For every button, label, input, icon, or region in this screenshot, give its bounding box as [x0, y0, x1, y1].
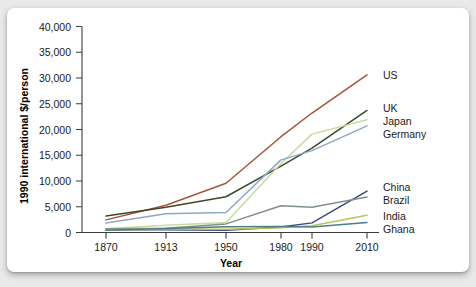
series-label-china: China [383, 181, 411, 193]
y-tick-label-35000: 35,000 [39, 46, 71, 58]
series-label-japan: Japan [383, 115, 412, 127]
x-tick-label-1870: 1870 [94, 241, 118, 253]
chart-card: 1990 international $/person 40,000 35,00… [7, 8, 469, 272]
x-tick-label-2010: 2010 [355, 241, 379, 253]
y-axis-title: 1990 international $/person [18, 68, 30, 204]
series-label-germany: Germany [383, 128, 427, 140]
series-label-india: India [383, 210, 406, 222]
series-label-us: US [383, 69, 398, 81]
series-line-us [106, 75, 367, 220]
line-chart-svg: 1990 international $/person 40,000 35,00… [7, 8, 469, 272]
series-label-ghana: Ghana [383, 223, 415, 235]
chart-plot-area: 1990 international $/person 40,000 35,00… [7, 8, 469, 272]
x-tick-label-1980: 1980 [269, 241, 293, 253]
series-label-uk: UK [383, 102, 398, 114]
x-tick-label-1990: 1990 [300, 241, 324, 253]
y-tick-label-15000: 15,000 [39, 149, 71, 161]
y-tick-label-0: 0 [65, 227, 71, 239]
y-tick-label-20000: 20,000 [39, 124, 71, 136]
y-tick-label-10000: 10,000 [39, 175, 71, 187]
y-tick-label-5000: 5,000 [45, 201, 71, 213]
x-tick-label-1950: 1950 [214, 241, 238, 253]
series-lines-group [106, 75, 367, 230]
y-tick-label-30000: 30,000 [39, 72, 71, 84]
y-tick-label-25000: 25,000 [39, 98, 71, 110]
y-tick-label-40000: 40,000 [39, 21, 71, 33]
x-tick-label-1913: 1913 [154, 241, 178, 253]
series-label-brazil: Brazil [383, 194, 409, 206]
series-line-uk [106, 110, 367, 216]
x-axis-title: Year [220, 257, 242, 269]
